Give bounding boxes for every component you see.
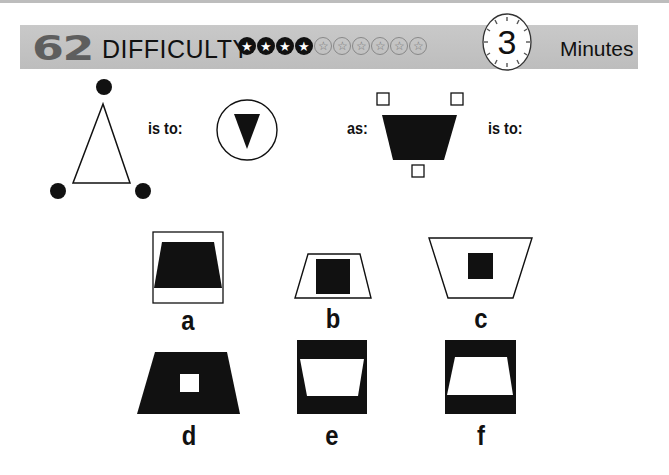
option-c-label[interactable]: c [468,303,494,335]
option-d-label[interactable]: d [176,420,202,452]
figure-circle-triangle [217,100,277,160]
option-e-figure[interactable] [297,340,367,414]
option-b-label[interactable]: b [320,303,346,335]
option-a-figure[interactable] [153,232,223,303]
option-c-figure[interactable] [429,238,532,298]
connector-is-to-1: is to: [148,119,183,139]
puzzle-figures [0,0,669,475]
option-a-label[interactable]: a [175,305,201,337]
option-e-label[interactable]: e [319,420,345,452]
connector-is-to-2: is to: [488,119,523,139]
connector-as: as: [347,119,368,139]
figure-triangle-dots [50,79,151,199]
option-f-label[interactable]: f [468,420,494,452]
option-d-figure[interactable] [137,352,240,414]
option-f-figure[interactable] [445,340,516,414]
figure-trapezoid-squares [377,93,463,177]
option-b-figure[interactable] [295,254,371,298]
